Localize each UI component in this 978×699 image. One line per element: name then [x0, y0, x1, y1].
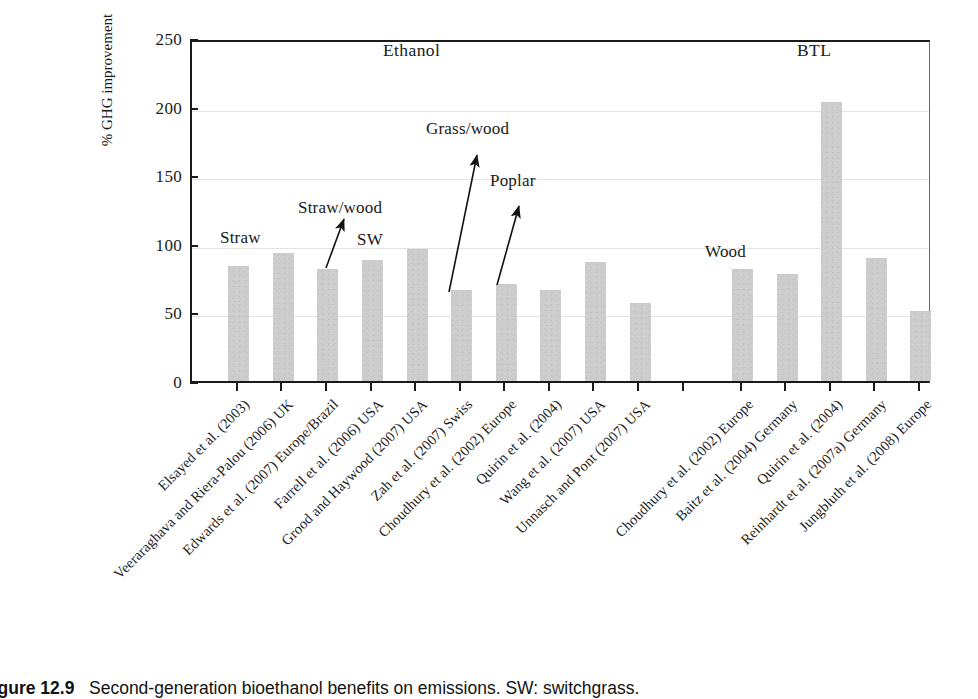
x-axis-tick [280, 383, 282, 391]
y-axis-tick [190, 108, 198, 110]
bar [496, 284, 517, 381]
y-axis-tick-label: 100 [156, 236, 182, 256]
figure-caption: Figure 12.9 Second-generation bioethanol… [0, 668, 978, 699]
gridline [192, 111, 929, 112]
y-axis-tick-label: 250 [156, 30, 182, 50]
caption-text: Second-generation bioethanol benefits on… [89, 678, 639, 698]
bar [777, 274, 798, 381]
bar [540, 290, 561, 381]
y-axis-tick [190, 39, 198, 41]
y-axis-tick [190, 176, 198, 178]
bar [732, 269, 753, 382]
annotation-label: SW [357, 230, 383, 250]
bar [228, 266, 249, 381]
x-axis-tick [370, 383, 372, 391]
y-axis-tick-label: 200 [156, 99, 182, 119]
bar [317, 269, 338, 382]
y-axis-title: % GHG improvement [99, 0, 116, 170]
bar [910, 311, 931, 381]
bar [821, 102, 842, 381]
x-axis-tick [592, 383, 594, 391]
bar [866, 258, 887, 381]
y-axis-tick [190, 313, 198, 315]
y-axis-tick-label: 0 [173, 373, 182, 393]
gridline [192, 248, 929, 249]
group-label-btl: BTL [797, 40, 831, 61]
x-axis-tick [740, 383, 742, 391]
x-axis-tick-label: Veeraraghava and Riera-Palou (2006) UK [111, 396, 298, 583]
x-axis-tick [873, 383, 875, 391]
gridline [192, 179, 929, 180]
y-axis-tick-labels: 050100150200250 [140, 40, 182, 383]
bar [407, 249, 428, 381]
bar [630, 303, 651, 381]
x-axis-tick [548, 383, 550, 391]
bar [585, 262, 606, 381]
plot-area: StrawStraw/woodSWGrass/woodPoplarWood [190, 40, 930, 383]
y-axis-tick-label: 50 [164, 304, 182, 324]
y-axis-tick [190, 382, 198, 384]
group-label-ethanol: Ethanol [383, 40, 440, 61]
annotation-label: Poplar [490, 171, 536, 191]
x-axis-tick [829, 383, 831, 391]
bar [362, 260, 383, 381]
x-axis-tick [682, 383, 684, 391]
x-axis-tick [236, 383, 238, 391]
x-axis-tick [637, 383, 639, 391]
x-axis-tick [414, 383, 416, 391]
x-axis-tick [784, 383, 786, 391]
x-axis-tick [459, 383, 461, 391]
y-axis-tick [190, 245, 198, 247]
x-axis-tick [918, 383, 920, 391]
bar [273, 253, 294, 381]
annotation-label: Wood [705, 242, 746, 262]
bar [451, 290, 472, 381]
x-axis-tick [325, 383, 327, 391]
annotation-label: Grass/wood [426, 119, 509, 139]
figure-container: % GHG improvement 050100150200250 StrawS… [0, 0, 978, 699]
y-axis-tick-label: 150 [156, 167, 182, 187]
x-axis-tick [503, 383, 505, 391]
annotation-label: Straw [220, 228, 261, 248]
annotation-label: Straw/wood [298, 198, 382, 218]
caption-number: Figure 12.9 [0, 678, 74, 698]
